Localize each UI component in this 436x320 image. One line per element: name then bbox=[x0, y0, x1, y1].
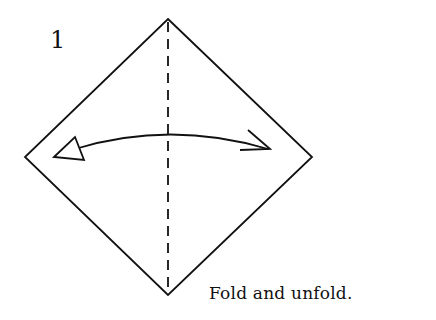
open-arrowhead-right-icon bbox=[240, 130, 270, 150]
origami-step-diagram: 1 Fold and unfold. bbox=[0, 0, 436, 320]
instruction-caption: Fold and unfold. bbox=[209, 283, 353, 303]
diagram-canvas bbox=[0, 0, 436, 320]
hollow-arrowhead-left-icon bbox=[54, 137, 84, 160]
step-number: 1 bbox=[50, 26, 65, 54]
curved-arrow-shaft bbox=[75, 135, 268, 150]
